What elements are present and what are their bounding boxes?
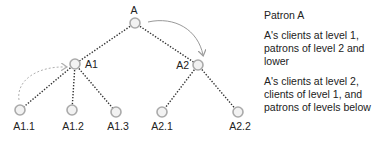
edge-A1-A1.2 [72, 64, 75, 110]
node-A1.3 [111, 107, 121, 117]
node-label-A2.2: A2.2 [229, 120, 251, 132]
node-label-A2.1: A2.1 [151, 120, 173, 132]
node-label-A1.3: A1.3 [107, 120, 129, 132]
legend-level1: A's clients at level 1, patrons of level… [264, 29, 381, 68]
node-A2.1 [157, 107, 167, 117]
node-label-A1.1: A1.1 [13, 120, 35, 132]
node-label-A1: A1 [85, 58, 98, 70]
legend: Patron A A's clients at level 1, patrons… [264, 9, 381, 121]
tree-nodes [15, 18, 243, 117]
edge-A1-A1.3 [75, 64, 116, 112]
node-A2 [193, 60, 203, 70]
edge-A-A1 [75, 23, 135, 64]
legend-level2: A's clients at level 2, clients of level… [264, 75, 381, 114]
node-label-A: A [130, 4, 137, 16]
node-A [130, 18, 140, 28]
edge-A2-A2.1 [162, 65, 198, 112]
curved-arrow-dashed-icon [19, 67, 66, 100]
node-label-A1.2: A1.2 [62, 120, 84, 132]
node-A2.2 [233, 107, 243, 117]
node-label-A2: A2 [176, 59, 189, 71]
edge-A2-A2.2 [198, 65, 238, 112]
node-A1.2 [67, 105, 77, 115]
node-A1.1 [15, 105, 25, 115]
legend-title: Patron A [264, 9, 381, 22]
node-A1 [70, 59, 80, 69]
edge-A1-A1.1 [20, 64, 75, 110]
